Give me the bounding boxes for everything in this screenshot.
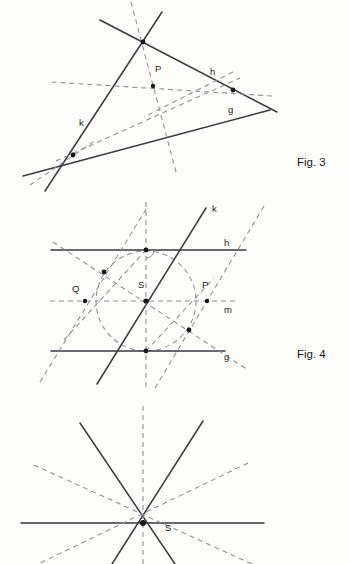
point-Q-marker (83, 299, 87, 303)
line-label-h: h (224, 237, 229, 248)
centre-S-marker (140, 520, 146, 526)
figure-caption-fig3: Fig. 3 (297, 156, 326, 168)
point-label-P: P (202, 279, 208, 290)
line-k-fig4 (97, 208, 206, 384)
point-label-Q: Q (72, 283, 79, 294)
line-label-g: g (228, 104, 233, 115)
figure-sheet: P h g k Fig. 3 (0, 0, 349, 564)
construction-oblique-right (155, 206, 264, 388)
point-upper-left-marker (102, 270, 107, 275)
solid-line-left-steep (80, 423, 175, 564)
vertex-left-marker (71, 153, 76, 158)
bisector-from-right-vertex (52, 82, 272, 96)
point-label-P: P (155, 63, 161, 74)
line-label-m: m (224, 304, 232, 315)
construction-line-upper-right (144, 72, 233, 117)
incenter-P-marker (151, 84, 155, 88)
line-label-k: k (212, 203, 217, 214)
point-on-h-marker (144, 248, 149, 253)
vertex-right-marker (231, 88, 236, 93)
centre-S-marker (143, 298, 148, 303)
point-label-S: S (138, 279, 144, 290)
line-k-fig3 (45, 12, 162, 191)
point-on-g-marker (144, 349, 149, 354)
solid-line-right-steep (112, 421, 203, 564)
figure-fig3: P h g k Fig. 3 (0, 0, 349, 195)
point-markers-fig3 (71, 40, 236, 158)
construction-line-lower-left (30, 140, 96, 185)
construction-arc-chord-left (64, 250, 146, 340)
figure-fig5: S (0, 392, 349, 564)
point-lower-right-marker (187, 328, 192, 333)
figure-caption-fig4: Fig. 4 (297, 348, 326, 360)
line-label-k: k (79, 117, 84, 128)
figure-fig4: k h S Q P m g Fig. 4 (0, 192, 349, 392)
line-label-h: h (210, 66, 215, 77)
point-P-marker (205, 299, 209, 303)
line-label-g: g (224, 351, 229, 362)
point-label-S: S (165, 522, 171, 533)
vertex-top-marker (141, 40, 146, 45)
